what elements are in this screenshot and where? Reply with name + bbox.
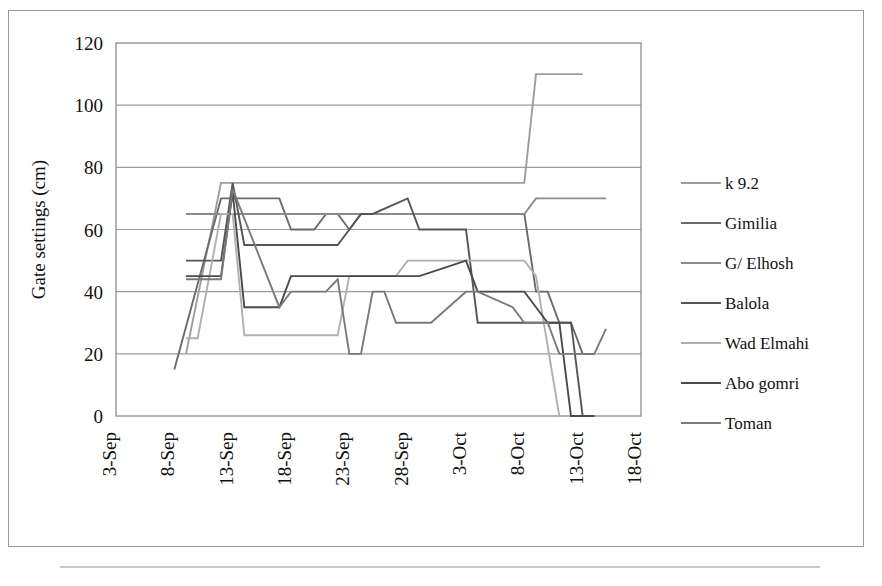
legend-item-label: Gimilia [725, 214, 777, 233]
y-tick-label: 120 [75, 33, 104, 54]
legend-item-label: Abo gomri [725, 374, 799, 393]
x-tick-label: 3-Oct [449, 431, 470, 475]
series-line [186, 183, 594, 416]
y-tick-label: 40 [84, 282, 103, 303]
y-tick-label: 0 [94, 406, 104, 427]
x-tick-label: 8-Sep [157, 432, 178, 476]
series-group [174, 74, 606, 416]
x-tick-label: 8-Oct [507, 431, 528, 475]
x-tick-label: 18-Sep [274, 432, 295, 486]
legend: k 9.2GimiliaG/ ElhoshBalolaWad ElmahiAbo… [681, 174, 809, 433]
gridlines-group [116, 105, 641, 354]
legend-item-label: G/ Elhosh [725, 254, 794, 273]
series-line [174, 198, 594, 369]
x-tick-label: 3-Sep [99, 432, 120, 476]
y-tick-labels-group: 020406080100120 [75, 33, 104, 427]
x-tick-label: 28-Sep [391, 432, 412, 486]
y-tick-label: 20 [84, 344, 103, 365]
legend-item-label: k 9.2 [725, 174, 759, 193]
series-line [186, 198, 606, 214]
x-tick-labels-group: 3-Sep8-Sep13-Sep18-Sep23-Sep28-Sep3-Oct8… [99, 431, 645, 486]
caption-rule [60, 566, 820, 568]
figure-frame: 020406080100120 3-Sep8-Sep13-Sep18-Sep23… [8, 10, 864, 547]
line-chart: 020406080100120 3-Sep8-Sep13-Sep18-Sep23… [9, 11, 865, 548]
legend-item-label: Wad Elmahi [725, 334, 809, 353]
x-tick-label: 23-Sep [332, 432, 353, 486]
y-tick-label: 80 [84, 157, 103, 178]
legend-item-label: Balola [725, 294, 770, 313]
legend-item-label: Toman [725, 414, 772, 433]
y-axis-title: Gate settings (cm) [28, 160, 50, 299]
x-tick-label: 18-Oct [624, 431, 645, 484]
y-tick-label: 100 [75, 95, 104, 116]
y-tick-label: 60 [84, 220, 103, 241]
x-tick-label: 13-Oct [566, 431, 587, 484]
x-tick-label: 13-Sep [216, 432, 237, 486]
